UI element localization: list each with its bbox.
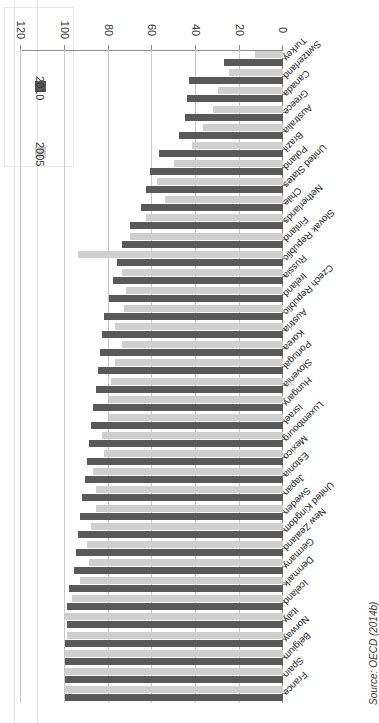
bar-2010 xyxy=(100,349,283,356)
bar-2010 xyxy=(130,222,283,229)
bar-2005 xyxy=(96,486,284,493)
bar-2005 xyxy=(109,396,284,403)
bar-2005 xyxy=(126,287,283,294)
plot-area: 020406080100120FranceSpainBelgiumNorwayI… xyxy=(22,50,284,703)
bar-row: Mexico xyxy=(22,449,284,467)
bar-row: Portugal xyxy=(22,358,284,376)
bar-row: Slovenia xyxy=(22,377,284,395)
x-axis-tick-label: 80 xyxy=(103,15,115,45)
bar-row: Ireland xyxy=(22,286,284,304)
bar-row: Netherlands xyxy=(22,213,284,231)
bar-2005 xyxy=(122,341,284,348)
bar-row: Turkey xyxy=(22,50,284,68)
bar-2005 xyxy=(218,87,284,94)
bar-2005 xyxy=(65,650,283,657)
bar-2005 xyxy=(115,360,283,367)
bar-2005 xyxy=(146,214,284,221)
bar-2010 xyxy=(76,549,283,556)
bar-2010 xyxy=(122,241,284,248)
bar-2005 xyxy=(72,595,284,602)
bar-2005 xyxy=(229,69,284,76)
bar-2005 xyxy=(104,450,283,457)
bar-2010 xyxy=(85,476,284,483)
bar-row: Brazil xyxy=(22,141,284,159)
bar-2005 xyxy=(165,196,283,203)
bar-2005 xyxy=(157,178,284,185)
bar-2010 xyxy=(113,277,283,284)
bar-2010 xyxy=(65,640,283,647)
bar-row: Austria xyxy=(22,322,284,340)
bar-2010 xyxy=(109,295,284,302)
bar-2005 xyxy=(67,632,283,639)
bar-2005 xyxy=(130,233,283,240)
bar-2010 xyxy=(93,404,283,411)
bar-2010 xyxy=(159,150,283,157)
bar-2005 xyxy=(96,505,284,512)
bar-row: United States xyxy=(22,177,284,195)
bar-row: Luxembourg xyxy=(22,431,284,449)
x-axis-tick-label: 100 xyxy=(59,15,71,45)
bar-2005 xyxy=(65,613,283,620)
bar-row: France xyxy=(22,685,284,703)
bar-row: Australia xyxy=(22,123,284,141)
bar-2010 xyxy=(87,458,284,465)
bar-2010 xyxy=(187,95,283,102)
bar-2005 xyxy=(87,541,284,548)
bar-row: Poland xyxy=(22,159,284,177)
bar-2005 xyxy=(65,686,283,693)
bar-row: Spain xyxy=(22,667,284,685)
bar-2005 xyxy=(65,668,283,675)
bar-2005 xyxy=(124,305,283,312)
bar-2005 xyxy=(89,559,283,566)
bar-2010 xyxy=(78,531,283,538)
bar-2010 xyxy=(74,567,284,574)
bar-row: Korea xyxy=(22,340,284,358)
bar-2005 xyxy=(102,432,283,439)
bar-2010 xyxy=(150,168,283,175)
bar-2010 xyxy=(146,186,284,193)
bar-2010 xyxy=(65,658,283,665)
bar-2010 xyxy=(80,513,283,520)
bar-2010 xyxy=(117,259,283,266)
bar-2010 xyxy=(96,386,284,393)
bar-2005 xyxy=(78,251,283,258)
x-axis-tick-label: 0 xyxy=(277,15,289,45)
bar-row: Japan xyxy=(22,485,284,503)
bar-2010 xyxy=(67,621,283,628)
bar-row: Switzerland xyxy=(22,68,284,86)
bar-2005 xyxy=(111,378,283,385)
bar-row: Denmark xyxy=(22,576,284,594)
bar-row: Estonia xyxy=(22,467,284,485)
bar-2005 xyxy=(91,523,283,530)
x-axis-tick-label: 40 xyxy=(190,15,202,45)
x-axis-tick-label: 120 xyxy=(15,15,27,45)
bar-row: Israel xyxy=(22,413,284,431)
bar-2010 xyxy=(91,422,283,429)
bar-2010 xyxy=(65,676,283,683)
bar-row: Canada xyxy=(22,86,284,104)
bar-row: Hungary xyxy=(22,395,284,413)
bar-2010 xyxy=(69,585,283,592)
bar-2010 xyxy=(102,331,283,338)
bar-row: Iceland xyxy=(22,594,284,612)
bar-2010 xyxy=(185,114,283,121)
bar-2010 xyxy=(89,440,283,447)
bar-row: Italy xyxy=(22,612,284,630)
bar-2005 xyxy=(80,577,283,584)
bar-2005 xyxy=(115,323,283,330)
bar-2005 xyxy=(109,414,284,421)
bar-row: Czech Republic xyxy=(22,304,284,322)
bar-2010 xyxy=(104,313,283,320)
bar-2005 xyxy=(174,160,283,167)
x-axis-tick-label: 20 xyxy=(234,15,246,45)
bar-2005 xyxy=(203,124,284,131)
bar-2010 xyxy=(67,603,283,610)
x-axis-tick-label: 60 xyxy=(146,15,158,45)
bar-2010 xyxy=(141,204,283,211)
bar-2005 xyxy=(255,51,283,58)
bar-row: United Kingdom xyxy=(22,522,284,540)
bar-row: Finland xyxy=(22,231,284,249)
bar-2010 xyxy=(98,368,284,375)
bar-2005 xyxy=(93,468,283,475)
